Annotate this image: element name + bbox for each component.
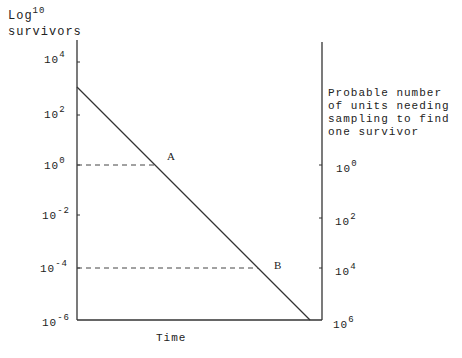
right-tick-label: 102	[335, 214, 357, 228]
left-tick-label: 104	[44, 52, 66, 66]
left-tick-label: 10-6	[42, 315, 70, 329]
right-axis-label: Probable number of units needing samplin…	[328, 87, 450, 139]
left-tick-label: 10-4	[40, 261, 68, 275]
diagram-canvas	[0, 0, 462, 358]
right-tick-label: 104	[335, 264, 357, 278]
survivor-curve	[77, 87, 310, 320]
left-tick-label: 102	[44, 107, 66, 121]
point-label-a: A	[167, 150, 175, 162]
left-tick-label: 100	[44, 158, 66, 172]
right-tick-label: 100	[336, 161, 358, 175]
right-tick-label: 106	[333, 317, 355, 331]
left-tick-label: 10-2	[42, 208, 70, 222]
left-axis-label: Log10 survivors	[8, 4, 82, 40]
point-label-b: B	[274, 259, 281, 271]
x-axis-label: Time	[156, 333, 186, 344]
